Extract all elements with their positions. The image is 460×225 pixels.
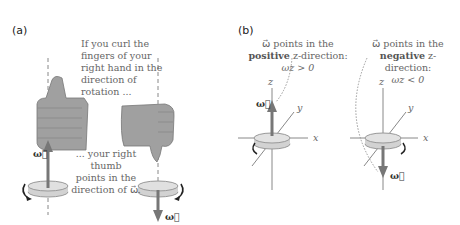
omega-negative-arrow — [378, 166, 388, 178]
rotation-arrow-cw-icon — [178, 184, 183, 198]
panel-b-label: (b) — [238, 24, 254, 37]
x-axis-label: x — [423, 132, 428, 144]
rotation-arrow-cw-icon — [401, 143, 405, 154]
omega-positive-label: ω⃗ — [256, 98, 271, 110]
omega-up-label: ω⃗ — [33, 148, 48, 160]
panel-a-top-text: If you curl the fingers of your right ha… — [81, 38, 162, 98]
panel-a-bottom-text: ... your right thumb points in the direc… — [64, 148, 148, 196]
z-axis-label: z — [379, 76, 384, 88]
omega-down-label: ω⃗ — [165, 211, 180, 223]
positive-caption: ω⃗ points in the positive z-direction: ω… — [248, 38, 348, 74]
negative-caption: ω⃗ points in the negative z-direction: ω… — [358, 38, 458, 86]
z-axis-label: z — [268, 76, 273, 88]
panel-a-label: (a) — [12, 24, 27, 37]
x-axis-label: x — [313, 132, 318, 144]
omega-negative-label: ω⃗ — [390, 170, 405, 182]
y-axis-label: y — [408, 102, 413, 114]
arrowhead-down-icon — [153, 210, 163, 222]
y-axis-label: y — [297, 102, 302, 114]
rotation-arrow-ccw-icon — [23, 184, 28, 198]
